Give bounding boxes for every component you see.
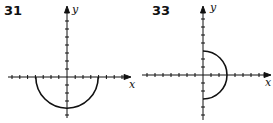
y-axis-arrow-icon (201, 6, 206, 13)
figure-31-graph (8, 6, 131, 118)
figure-33-x-label: x (265, 76, 272, 89)
figure-31-y-label: y (71, 3, 79, 16)
graphs-canvas: y x y x (0, 0, 273, 123)
figure-33-y-label: y (209, 1, 217, 14)
figure-31-x-label: x (129, 78, 136, 91)
figure-33-graph (142, 6, 271, 120)
y-axis-arrow-icon (65, 6, 70, 13)
